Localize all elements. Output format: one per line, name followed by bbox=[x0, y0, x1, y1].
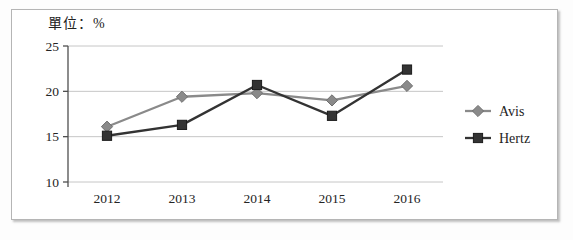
y-tick-label-15: 15 bbox=[46, 129, 60, 144]
marker-avis bbox=[326, 95, 337, 106]
y-tick-label-10: 10 bbox=[46, 175, 60, 190]
marker-hertz bbox=[252, 80, 261, 89]
marker-hertz bbox=[102, 131, 111, 140]
x-tick-label-2012: 2012 bbox=[94, 191, 121, 206]
legend-label-hertz: Hertz bbox=[499, 131, 530, 146]
x-tick-label-2015: 2015 bbox=[319, 191, 346, 206]
y-tick-label-20: 20 bbox=[46, 84, 60, 99]
marker-hertz bbox=[402, 65, 411, 74]
y-tick-label-25: 25 bbox=[46, 39, 60, 54]
marker-hertz bbox=[473, 133, 482, 142]
line-chart: 1015202520122013201420152016AvisHertz bbox=[0, 0, 573, 240]
marker-hertz bbox=[177, 120, 186, 129]
x-tick-label-2014: 2014 bbox=[244, 191, 271, 206]
x-tick-label-2016: 2016 bbox=[394, 191, 421, 206]
x-tick-label-2013: 2013 bbox=[169, 191, 196, 206]
marker-avis bbox=[401, 80, 412, 91]
marker-avis bbox=[176, 91, 187, 102]
marker-avis bbox=[101, 121, 112, 132]
screenshot-canvas: 單位：% 1015202520122013201420152016AvisHer… bbox=[0, 0, 573, 240]
legend-label-avis: Avis bbox=[499, 104, 524, 119]
marker-avis bbox=[472, 105, 483, 116]
series-line-hertz bbox=[107, 70, 407, 136]
marker-hertz bbox=[327, 111, 336, 120]
